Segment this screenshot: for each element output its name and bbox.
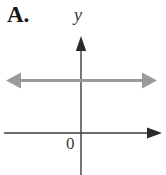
y-axis-arrowhead-icon (76, 36, 86, 51)
coordinate-plane-svg (0, 0, 166, 175)
x-axis-arrowhead-icon (147, 128, 162, 139)
function-line-left-arrowhead-icon (6, 73, 21, 89)
function-line-right-arrowhead-icon (142, 73, 157, 89)
graph-figure-choice-a: A. y 0 (0, 0, 166, 175)
